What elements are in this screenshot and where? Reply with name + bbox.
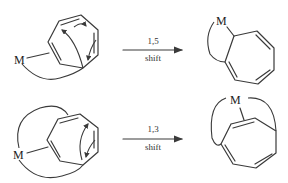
- reaction-scheme: M 1,5 shift M M 1,3 shift: [0, 0, 288, 183]
- reactant-bottom: M: [13, 106, 98, 178]
- arrow-label-top: 1,5: [147, 36, 159, 46]
- arrow-label-bottom: shift: [145, 142, 162, 152]
- metal-atom-label: M: [230, 93, 241, 107]
- arrow-label-top: 1,3: [147, 124, 159, 134]
- metal-atom-label: M: [14, 53, 25, 67]
- metal-atom-label: M: [216, 14, 227, 28]
- reactant-top: M: [14, 15, 98, 79]
- product-top: M: [208, 14, 274, 84]
- metal-atom-label: M: [13, 148, 24, 162]
- arrow-1-3-shift: 1,3 shift: [123, 124, 182, 152]
- arrow-label-bottom: shift: [145, 53, 162, 63]
- product-bottom: M: [211, 93, 276, 168]
- arrow-1-5-shift: 1,5 shift: [123, 36, 182, 63]
